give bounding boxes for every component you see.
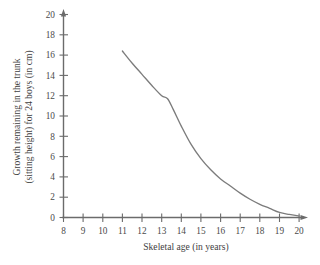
- x-axis-title: Skeletal age (in years): [143, 241, 229, 253]
- x-tick-label: 9: [81, 226, 86, 236]
- x-tick-label: 15: [196, 226, 206, 236]
- y-axis-title-line1: Growth remaining in the trunk: [11, 58, 22, 175]
- x-tick-label: 13: [157, 226, 167, 236]
- y-tick-label: 12: [46, 91, 56, 101]
- x-tick-label: 18: [255, 226, 265, 236]
- y-tick-label: 4: [50, 172, 55, 182]
- y-tick-label: 20: [46, 10, 56, 20]
- x-tick-label: 20: [294, 226, 304, 236]
- y-tick-labels: 0 2 4 6 8 10 12 14 16 18 20: [46, 10, 56, 223]
- growth-remaining-chart: 0 2 4 6 8 10 12 14 16 18 20 8 9 10 11 12…: [0, 0, 320, 265]
- y-tick-label: 8: [50, 132, 55, 142]
- y-tick-label: 18: [46, 30, 56, 40]
- y-axis-arrow-icon: [61, 9, 66, 17]
- x-tick-label: 10: [98, 226, 108, 236]
- x-tick-label: 14: [177, 226, 187, 236]
- y-tick-label: 14: [46, 71, 56, 81]
- y-tick-label: 2: [50, 192, 55, 202]
- chart-canvas: 0 2 4 6 8 10 12 14 16 18 20 8 9 10 11 12…: [0, 0, 320, 265]
- y-tick-label: 0: [50, 213, 55, 223]
- x-tick-label: 11: [118, 226, 127, 236]
- growth-curve: [122, 51, 299, 216]
- y-axis-title-line2: (sitting height) for 24 boys (in cm): [23, 50, 35, 183]
- y-tick-label: 16: [46, 50, 56, 60]
- x-tick-label: 16: [216, 226, 226, 236]
- y-tick-label: 10: [46, 111, 56, 121]
- y-tick-label: 6: [50, 152, 55, 162]
- x-tick-label: 8: [61, 226, 66, 236]
- x-tick-label: 12: [137, 226, 147, 236]
- x-tick-label: 17: [236, 226, 246, 236]
- x-tick-label: 19: [275, 226, 285, 236]
- x-tick-labels: 8 9 10 11 12 13 14 15 16 17 18 19 20: [61, 226, 304, 236]
- x-axis-arrow-icon: [301, 215, 309, 220]
